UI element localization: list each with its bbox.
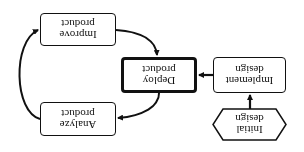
diagram-canvas: Initial design Implement design Deploy p… bbox=[0, 0, 304, 152]
node-label-line: product bbox=[61, 108, 95, 119]
node-initial-design: Initial design bbox=[213, 109, 286, 140]
edge-analyze-to-improve bbox=[19, 30, 40, 119]
node-label-line: product bbox=[142, 64, 176, 75]
edge-improve-to-deploy bbox=[116, 30, 157, 55]
node-label-line: Implement bbox=[226, 75, 274, 86]
node-deploy-product: Deploy product bbox=[121, 57, 197, 93]
node-label-line: design bbox=[235, 114, 264, 125]
node-label-line: Deploy bbox=[143, 75, 175, 86]
node-label-line: design bbox=[235, 64, 264, 75]
node-label-line: product bbox=[61, 19, 95, 30]
node-label-line: Initial bbox=[236, 125, 262, 136]
node-label-line: Improve bbox=[59, 30, 96, 41]
node-label-line: Analyze bbox=[60, 119, 97, 130]
node-analyze-product: Analyze product bbox=[40, 102, 116, 136]
node-implement-design: Implement design bbox=[213, 57, 286, 93]
node-improve-product: Improve product bbox=[40, 13, 116, 46]
edge-deploy-to-analyze bbox=[118, 93, 159, 118]
